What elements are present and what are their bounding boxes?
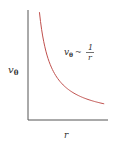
annotation-relation: ~ [75, 48, 82, 57]
chart: vθ r vθ~ 1 r [0, 0, 115, 145]
annotation-denominator: r [88, 53, 93, 62]
svg-text:vθ~: vθ~ [64, 47, 82, 58]
annotation-lhs-sub: θ [69, 51, 73, 58]
y-axis-label-sub: θ [14, 68, 19, 77]
x-axis-label: r [64, 130, 69, 140]
y-axis-label: vθ [8, 64, 19, 77]
curve-annotation: vθ~ 1 r [64, 43, 94, 62]
annotation-numerator: 1 [88, 43, 93, 52]
